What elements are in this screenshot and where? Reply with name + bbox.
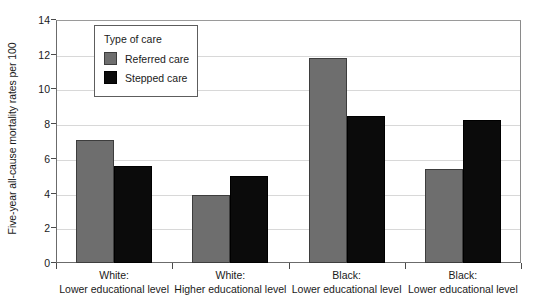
y-axis-tick: 6: [0, 152, 56, 166]
y-axis-tick-label: 6: [44, 153, 56, 165]
x-axis-tick-mark: [521, 263, 522, 269]
bar: [230, 176, 268, 263]
y-axis-tick: 10: [0, 82, 56, 96]
legend-swatch-stepped-care: [104, 71, 117, 84]
x-axis-category-label: White:Lower educational level: [56, 268, 172, 296]
legend-title: Type of care: [104, 33, 189, 45]
x-axis-category-line2: Lower educational level: [56, 282, 172, 296]
bar: [76, 140, 114, 263]
bar: [114, 166, 152, 263]
x-axis-category-line1: Black:: [405, 268, 521, 282]
legend-label-stepped-care: Stepped care: [125, 72, 187, 84]
legend-item-stepped-care: Stepped care: [104, 71, 189, 84]
y-axis-tick-label: 10: [38, 83, 56, 95]
y-axis-tick-label: 12: [38, 49, 56, 61]
x-axis-category-label: Black:Lower educational level: [405, 268, 521, 296]
bar-chart: Five-year all-cause mortality rates per …: [0, 0, 537, 299]
x-axis-category-line1: White:: [172, 268, 288, 282]
x-axis-category-line2: Higher educational level: [172, 282, 288, 296]
x-axis-category-line1: White:: [56, 268, 172, 282]
y-axis-tick-label: 2: [44, 222, 56, 234]
x-axis-category-label: Black:Lower educational level: [289, 268, 405, 296]
y-axis-tick: 14: [0, 13, 56, 27]
x-axis-category-label: White:Higher educational level: [172, 268, 288, 296]
bar: [309, 58, 347, 263]
bar: [425, 169, 463, 263]
x-axis-labels: White:Lower educational levelWhite:Highe…: [56, 268, 521, 299]
bar: [347, 116, 385, 263]
x-axis-category-line1: Black:: [289, 268, 405, 282]
y-axis-tick: 4: [0, 187, 56, 201]
y-axis-tick: 12: [0, 48, 56, 62]
legend: Type of care Referred care Stepped care: [94, 25, 198, 97]
y-axis-tick-label: 8: [44, 118, 56, 130]
legend-swatch-referred-care: [104, 52, 117, 65]
legend-label-referred-care: Referred care: [125, 53, 189, 65]
y-axis-tick: 2: [0, 221, 56, 235]
y-axis-tick: 0: [0, 256, 56, 270]
legend-item-referred-care: Referred care: [104, 52, 189, 65]
y-axis-tick-label: 4: [44, 188, 56, 200]
y-axis-tick-label: 14: [38, 14, 56, 26]
bar: [463, 120, 501, 263]
x-axis-category-line2: Lower educational level: [289, 282, 405, 296]
x-axis-category-line2: Lower educational level: [405, 282, 521, 296]
y-axis-title: Five-year all-cause mortality rates per …: [0, 0, 24, 288]
y-axis-tick-label: 0: [44, 257, 56, 269]
bar: [192, 195, 230, 263]
y-axis-tick: 8: [0, 117, 56, 131]
